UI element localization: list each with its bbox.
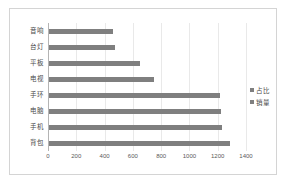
bar-row[interactable] — [49, 23, 113, 39]
category-label: 背包 — [14, 135, 48, 151]
category-label: 手机 — [14, 119, 48, 135]
bar[interactable] — [49, 141, 230, 146]
bar[interactable] — [49, 125, 222, 130]
category-label: 电视 — [14, 71, 48, 87]
category-label: 音响 — [14, 23, 48, 39]
x-tick-label: 1200 — [211, 153, 224, 159]
bar-row[interactable] — [49, 71, 154, 87]
category-label: 台灯 — [14, 39, 48, 55]
legend-swatch-xiaoliang — [250, 100, 254, 104]
legend-swatch-zhanbi — [250, 88, 254, 92]
bar-row[interactable] — [49, 135, 230, 151]
bar[interactable] — [49, 61, 140, 66]
x-tick-label: 400 — [100, 153, 110, 159]
category-label: 平板 — [14, 55, 48, 71]
plot-area — [48, 23, 246, 151]
chart-legend: 占比 销量 — [250, 85, 284, 109]
bar-row[interactable] — [49, 55, 140, 71]
x-tick-label: 1400 — [239, 153, 252, 159]
bar[interactable] — [49, 109, 221, 114]
bar[interactable] — [49, 93, 220, 98]
chart-container: 音响台灯平板电视手环电脑手机背包 02004006008001000120014… — [9, 8, 277, 175]
category-axis: 音响台灯平板电视手环电脑手机背包 — [10, 23, 48, 151]
bar-row[interactable] — [49, 119, 222, 135]
x-tick-label: 800 — [156, 153, 166, 159]
bar-row[interactable] — [49, 103, 221, 119]
legend-item-zhanbi[interactable]: 占比 — [250, 85, 284, 95]
gridline — [246, 23, 247, 151]
bar[interactable] — [49, 77, 154, 82]
category-label: 电脑 — [14, 103, 48, 119]
bar[interactable] — [49, 45, 115, 50]
legend-label-xiaoliang: 销量 — [256, 97, 270, 107]
bar[interactable] — [49, 29, 113, 34]
x-tick-label: 0 — [46, 153, 49, 159]
x-tick-label: 1000 — [183, 153, 196, 159]
category-label: 手环 — [14, 87, 48, 103]
bar-row[interactable] — [49, 39, 115, 55]
x-tick-label: 200 — [71, 153, 81, 159]
legend-label-zhanbi: 占比 — [256, 85, 270, 95]
x-tick-label: 600 — [128, 153, 138, 159]
bar-row[interactable] — [49, 87, 220, 103]
legend-item-xiaoliang[interactable]: 销量 — [250, 97, 284, 107]
x-axis-tick-labels: 0200400600800100012001400 — [48, 153, 246, 167]
